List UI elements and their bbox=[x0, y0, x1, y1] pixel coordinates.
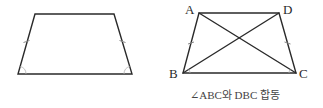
bottom-right-angle-arc bbox=[124, 66, 130, 74]
left-trapezoid bbox=[18, 14, 132, 74]
left-trapezoid-outline bbox=[18, 14, 132, 74]
vertex-label-B: B bbox=[169, 66, 178, 81]
vertex-label-C: C bbox=[299, 66, 308, 81]
vertex-label-A: A bbox=[185, 2, 195, 17]
right-figure-caption: ∠ABC와 DBC 합동 bbox=[180, 86, 290, 102]
bottom-left-angle-arc bbox=[20, 66, 26, 74]
diagonal-BD bbox=[183, 13, 279, 73]
vertex-label-D: D bbox=[283, 2, 292, 17]
right-trapezoid: A D B C bbox=[169, 2, 308, 81]
right-trapezoid-outline bbox=[183, 13, 296, 73]
